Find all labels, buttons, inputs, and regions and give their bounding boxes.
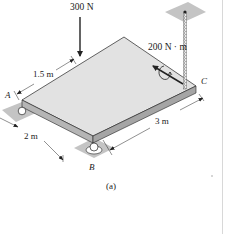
point-label-b: B <box>89 162 95 172</box>
plate <box>22 37 196 143</box>
moment-label: 200 N · m <box>148 42 187 52</box>
point-label-a: A <box>4 90 11 100</box>
point-label-c: C <box>201 76 208 86</box>
dimension-label-2m: 2 m <box>24 131 38 141</box>
figure-caption: (a) <box>106 181 116 191</box>
dimension-label-1-5m: 1.5 m <box>33 69 54 79</box>
roller-support-a <box>18 107 26 115</box>
plate-diagram: 300 N 200 N · m A B C 1.5 m 2 m 3 m (a) <box>0 0 228 234</box>
force-label: 300 N <box>70 2 94 12</box>
dimension-label-3m: 3 m <box>155 116 169 126</box>
